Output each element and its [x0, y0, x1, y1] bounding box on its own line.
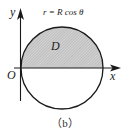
origin-label: O — [7, 68, 16, 82]
region-d-shaded — [21, 27, 103, 68]
y-axis-label: y — [9, 5, 16, 19]
x-axis-label: x — [109, 69, 116, 83]
equation-label: r = R cos θ — [43, 7, 84, 17]
figure-caption: （b） — [0, 114, 130, 130]
region-label: D — [50, 39, 60, 53]
